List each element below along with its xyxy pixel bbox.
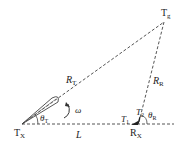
receiver-label: RX: [130, 127, 142, 140]
beam-hatch: [22, 99, 56, 124]
theta-t-label: θT: [40, 113, 48, 124]
target-label: Tg: [161, 7, 171, 20]
omega-arrowhead-icon: [65, 102, 70, 107]
bistatic-geometry-diagram: TX RX Tg RT RR L θT θR ω T1 T2: [0, 0, 188, 148]
range-rt-label: RT: [65, 74, 77, 87]
line-tx-to-target: [22, 22, 164, 124]
transmitter-label: TX: [14, 127, 25, 140]
receiver-marker-icon: [131, 121, 138, 125]
theta-r-label: θR: [148, 110, 156, 121]
baseline-l-label: L: [75, 129, 82, 140]
range-rr-label: RR: [152, 75, 164, 88]
line-target-to-rx: [139, 22, 164, 122]
t2-label: T2: [136, 107, 144, 118]
omega-label: ω: [75, 105, 81, 115]
t1-label: T1: [121, 114, 129, 125]
